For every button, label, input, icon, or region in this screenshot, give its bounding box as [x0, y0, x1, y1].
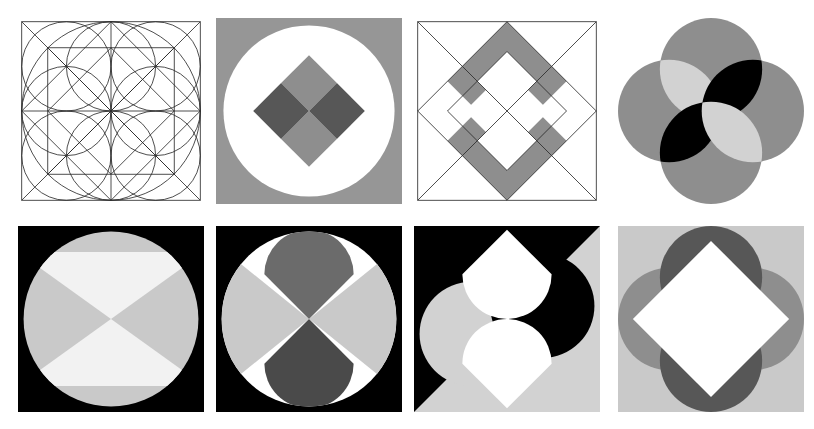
panel-diagonal-split-teardrops[interactable]	[414, 226, 600, 412]
panel-construction-grid[interactable]	[18, 18, 204, 204]
rosette-white-diamond-artwork	[618, 226, 804, 412]
panel-four-lobe-circle[interactable]	[216, 226, 402, 412]
panel-four-circle-rosette[interactable]	[618, 18, 804, 204]
panel-nested-diamond-band[interactable]	[414, 18, 600, 204]
panel-rosette-with-white-diamond[interactable]	[618, 226, 804, 412]
four-lobe-circle-artwork	[216, 226, 402, 412]
four-circle-rosette-artwork	[618, 18, 804, 204]
hourglass-in-circle-artwork	[18, 226, 204, 412]
figure-sheet	[0, 0, 814, 429]
construction-grid-artwork	[18, 18, 204, 204]
panel-hourglass-in-circle[interactable]	[18, 226, 204, 412]
circle-quartered-diamond-artwork	[216, 18, 402, 204]
diagonal-split-teardrops-artwork	[414, 226, 600, 412]
panel-circle-quartered-diamond[interactable]	[216, 18, 402, 204]
nested-diamond-band-artwork	[414, 18, 600, 204]
